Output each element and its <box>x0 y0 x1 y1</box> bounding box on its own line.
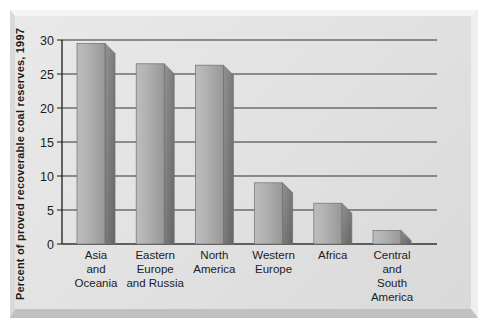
x-category-label-line: Europe <box>255 263 292 275</box>
bar-front-face <box>195 65 223 244</box>
bar-asia-and-oceania <box>77 43 115 244</box>
x-category-label-line: North <box>200 249 228 261</box>
bar-front-face <box>77 43 105 244</box>
figure: 051015202530AsiaandOceaniaEasternEuropea… <box>0 0 488 329</box>
x-category-label: Africa <box>318 249 348 261</box>
y-tick-label-5: 5 <box>47 204 54 218</box>
x-category-label: WesternEurope <box>252 249 295 275</box>
bar-front-face <box>136 64 164 244</box>
x-category-label-line: Africa <box>318 249 348 261</box>
bar-side-face <box>223 65 233 244</box>
x-category-label-line: Asia <box>85 249 108 261</box>
x-category-label-line: South <box>377 277 407 289</box>
bar-western-europe <box>255 183 293 244</box>
bar-side-face <box>164 64 174 244</box>
y-tick-label-20: 20 <box>40 102 54 116</box>
x-category-label-line: Eastern <box>135 249 175 261</box>
bar-front-face <box>373 230 401 244</box>
x-category-label-line: and Russia <box>126 277 184 289</box>
y-tick-label-30: 30 <box>40 34 54 48</box>
x-category-label-line: Europe <box>137 263 174 275</box>
bar-eastern-europe-and-russia <box>136 64 174 244</box>
bar-side-face <box>283 183 293 244</box>
bar-north-america <box>195 65 233 244</box>
bar-side-face <box>401 230 411 244</box>
x-category-label: CentralandSouthAmerica <box>371 249 414 303</box>
y-tick-label-10: 10 <box>40 170 54 184</box>
bar-front-face <box>255 183 283 244</box>
bar-central-and-south-america <box>373 230 411 244</box>
bar-side-face <box>342 203 352 244</box>
x-category-label: NorthAmerica <box>193 249 236 275</box>
y-axis-title: Percent of proved recoverable coal reser… <box>14 28 26 300</box>
y-tick-label-0: 0 <box>47 238 54 252</box>
y-tick-label-25: 25 <box>40 68 54 82</box>
bar-side-face <box>105 43 115 244</box>
x-category-label-line: Western <box>252 249 295 261</box>
x-category-label-line: Central <box>373 249 410 261</box>
x-category-label-line: America <box>371 291 414 303</box>
x-category-label: AsiaandOceania <box>75 249 118 289</box>
x-category-label-line: Oceania <box>75 277 118 289</box>
coal-reserves-bar-chart: 051015202530AsiaandOceaniaEasternEuropea… <box>0 0 488 329</box>
bar-africa <box>314 203 352 244</box>
x-category-label-line: and <box>382 263 401 275</box>
bar-front-face <box>314 203 342 244</box>
y-tick-label-15: 15 <box>40 136 54 150</box>
x-category-label-line: America <box>193 263 236 275</box>
x-category-label: EasternEuropeand Russia <box>126 249 184 289</box>
x-category-label-line: and <box>86 263 105 275</box>
